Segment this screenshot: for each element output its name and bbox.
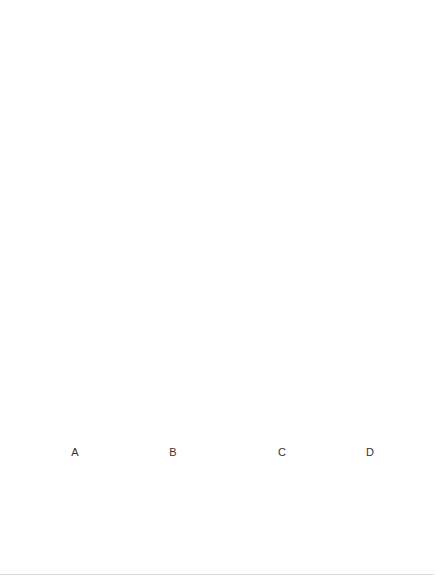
- option-label-b: B: [163, 446, 183, 458]
- option-label-a: A: [65, 446, 85, 458]
- puzzle-page: ABCD: [0, 0, 438, 579]
- option-label-d: D: [360, 446, 380, 458]
- option-label-c: C: [272, 446, 292, 458]
- frame-border: [0, 574, 434, 575]
